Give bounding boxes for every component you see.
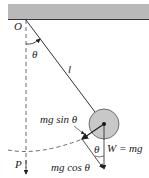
- swing-arc: [8, 138, 85, 152]
- length-label: l: [68, 63, 71, 75]
- pivot-label: O: [14, 20, 22, 32]
- angle-bottom-label: θ: [94, 143, 100, 155]
- equilibrium-point-label: P: [14, 158, 22, 170]
- pendulum-diagram: O θ l mg sin θ θ W = mg mg cos θ P: [0, 0, 149, 178]
- weight-label: W = mg: [107, 142, 143, 154]
- label-pointer: [74, 126, 84, 134]
- ceiling: [8, 4, 149, 19]
- angle-arc-top: [26, 39, 40, 44]
- angle-arc-bottom: [95, 156, 104, 157]
- angle-top-label: θ: [32, 48, 38, 60]
- tangential-force-label: mg sin θ: [40, 113, 78, 125]
- pendulum-string: [26, 20, 104, 124]
- radial-force-label: mg cos θ: [51, 161, 91, 173]
